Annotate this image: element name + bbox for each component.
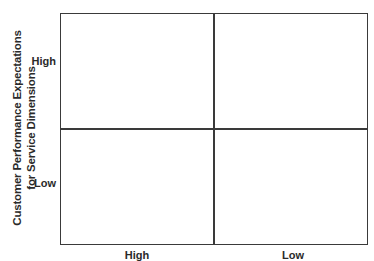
quadrant-top-right <box>214 14 367 128</box>
y-axis-title-line-2: for Service Dimensions <box>24 8 38 248</box>
y-tick-low: Low <box>34 177 56 189</box>
quadrant-bottom-left <box>61 129 213 244</box>
x-tick-low: Low <box>282 249 304 261</box>
horizontal-divider <box>61 128 367 130</box>
y-axis-title: Customer Performance Expectations for Se… <box>10 8 38 248</box>
y-tick-high: High <box>32 55 56 67</box>
x-tick-high: High <box>125 249 149 261</box>
quadrant-bottom-right <box>214 129 367 244</box>
matrix-grid <box>60 13 368 245</box>
quadrant-top-left <box>61 14 213 128</box>
y-axis-title-line-1: Customer Performance Expectations <box>10 8 24 248</box>
